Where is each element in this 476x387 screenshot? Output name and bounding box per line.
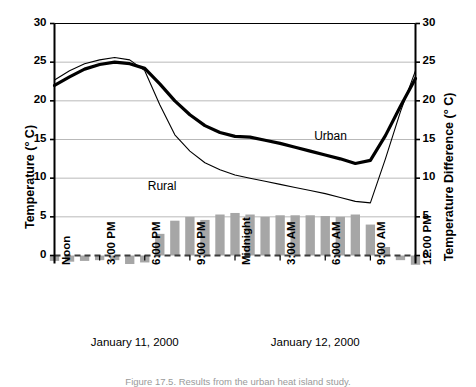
- gridlines: [55, 24, 416, 217]
- series-label-rural: Rural: [148, 179, 177, 193]
- y-tick-label-right: 10: [423, 170, 459, 182]
- bar: [170, 221, 179, 256]
- y-tick-label-left: 10: [11, 170, 47, 182]
- y-tick-label-left: 15: [11, 132, 47, 144]
- x-tick-label: 3:00 AM: [285, 221, 297, 265]
- y-tick-label-right: 15: [423, 132, 459, 144]
- y-tick-label-right: 30: [423, 16, 459, 28]
- x-tick-label: Midnight: [240, 217, 252, 265]
- x-tick-label: 9:00 PM: [195, 221, 207, 264]
- y-tick-label-right: 25: [423, 54, 459, 66]
- bar: [321, 216, 330, 255]
- line-series-rural: [55, 58, 416, 203]
- bar: [215, 215, 224, 256]
- x-tick-label: Noon: [60, 235, 72, 264]
- series-label-urban: Urban: [314, 129, 347, 143]
- bar: [366, 225, 375, 256]
- x-tick-label: 9:00 AM: [375, 221, 387, 265]
- bar: [306, 215, 315, 255]
- day-label-jan-11: January 11, 2000: [45, 336, 226, 348]
- day-label-jan-12: January 12, 2000: [225, 336, 406, 348]
- bar: [351, 215, 360, 256]
- line-series-urban: [55, 62, 416, 163]
- x-tick-label: 3:00 PM: [105, 221, 117, 264]
- x-tick-label: 6:00 PM: [150, 221, 162, 264]
- x-tick-label: 6:00 AM: [330, 221, 342, 265]
- bar: [260, 217, 269, 256]
- y-tick-label-right: 20: [423, 93, 459, 105]
- bar: [185, 217, 194, 256]
- bar: [230, 213, 239, 256]
- y-tick-label-left: 30: [11, 16, 47, 28]
- y-tick-label-left: 0: [11, 248, 47, 260]
- y-tick-label-left: 25: [11, 54, 47, 66]
- y-tick-label-left: 5: [11, 209, 47, 221]
- bar: [125, 256, 134, 265]
- y-tick-label-left: 20: [11, 93, 47, 105]
- bar: [275, 215, 284, 255]
- figure-caption: Figure 17.5. Results from the urban heat…: [0, 376, 476, 387]
- x-tick-label: 12:00 PM: [421, 215, 433, 265]
